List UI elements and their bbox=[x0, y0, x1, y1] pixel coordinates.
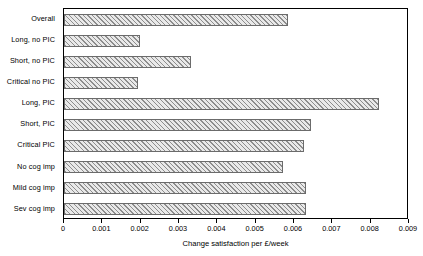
y-label-sev-cog-imp: Sev cog imp bbox=[0, 198, 59, 219]
x-tick-label: 0 bbox=[61, 225, 65, 232]
x-tick-label: 0.009 bbox=[399, 225, 417, 232]
bar-row bbox=[64, 72, 407, 93]
x-tick-mark bbox=[408, 219, 409, 223]
x-tick-label: 0.001 bbox=[92, 225, 110, 232]
y-label-long-no-pic: Long, no PIC bbox=[0, 29, 59, 50]
bar-row bbox=[64, 157, 407, 178]
bar-long-pic bbox=[64, 98, 379, 110]
y-label-long-pic: Long, PIC bbox=[0, 92, 59, 113]
plot-area bbox=[63, 8, 408, 219]
x-tick-mark bbox=[331, 219, 332, 223]
bar-mild-cog-imp bbox=[64, 182, 306, 194]
x-tick-label: 0.007 bbox=[322, 225, 340, 232]
y-label-mild-cog-imp: Mild cog imp bbox=[0, 177, 59, 198]
bar-row bbox=[64, 51, 407, 72]
x-tick-label: 0.005 bbox=[246, 225, 264, 232]
x-tick-mark bbox=[101, 219, 102, 223]
bar-row bbox=[64, 114, 407, 135]
bar-no-cog-imp bbox=[64, 161, 283, 173]
x-tick-label: 0.008 bbox=[361, 225, 379, 232]
x-tick-mark bbox=[370, 219, 371, 223]
x-tick-label: 0.003 bbox=[169, 225, 187, 232]
x-tick-mark bbox=[63, 219, 64, 223]
x-tick-label: 0.004 bbox=[207, 225, 225, 232]
x-tick-mark bbox=[255, 219, 256, 223]
y-label-short-pic: Short, PIC bbox=[0, 113, 59, 134]
bar-overall bbox=[64, 14, 288, 26]
bar-critical-pic bbox=[64, 140, 304, 152]
bar-row bbox=[64, 199, 407, 220]
x-tick-mark bbox=[216, 219, 217, 223]
y-axis-category-labels: OverallLong, no PICShort, no PICCritical… bbox=[0, 8, 59, 219]
y-label-critical-pic: Critical PIC bbox=[0, 135, 59, 156]
bar-short-pic bbox=[64, 119, 311, 131]
x-tick-label: 0.006 bbox=[284, 225, 302, 232]
bar-sev-cog-imp bbox=[64, 203, 306, 215]
bar-row bbox=[64, 9, 407, 30]
bar-critical-no-pic bbox=[64, 77, 138, 89]
bar-row bbox=[64, 136, 407, 157]
bar-row bbox=[64, 93, 407, 114]
bar-chart: OverallLong, no PICShort, no PICCritical… bbox=[0, 0, 423, 256]
bar-row bbox=[64, 178, 407, 199]
x-tick-mark bbox=[140, 219, 141, 223]
y-label-critical-no-pic: Critical no PIC bbox=[0, 71, 59, 92]
bar-long-no-pic bbox=[64, 35, 140, 47]
x-axis-title: Change satisfaction per £/week bbox=[63, 240, 408, 248]
x-tick-mark bbox=[178, 219, 179, 223]
y-label-short-no-pic: Short, no PIC bbox=[0, 50, 59, 71]
bar-row bbox=[64, 30, 407, 51]
x-tick-label: 0.002 bbox=[131, 225, 149, 232]
y-label-overall: Overall bbox=[0, 8, 59, 29]
x-tick-mark bbox=[293, 219, 294, 223]
x-axis-tick-labels: 00.0010.0020.0030.0040.0050.0060.0070.00… bbox=[0, 225, 423, 237]
bar-short-no-pic bbox=[64, 56, 191, 68]
y-label-no-cog-imp: No cog imp bbox=[0, 156, 59, 177]
